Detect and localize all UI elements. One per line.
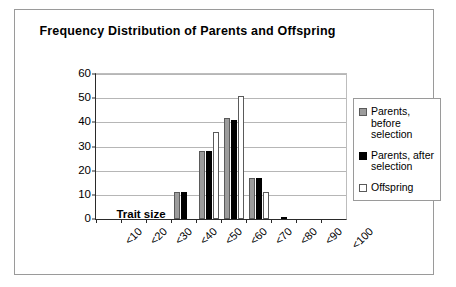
x-tick-mark: [296, 219, 297, 223]
legend-item: Offspring: [359, 182, 436, 194]
legend-label: Parents, before selection: [371, 106, 436, 141]
plot-area: 0102030405060<10<20<30<40<50<60<70<80<90…: [95, 73, 347, 220]
x-axis-label: Trait size: [15, 208, 267, 220]
x-tick-label: <90: [322, 225, 344, 247]
bar-group: [246, 74, 271, 219]
bar: [238, 96, 244, 219]
x-tick-label: <10: [122, 225, 144, 247]
legend-swatch-offspring: [359, 184, 367, 192]
chart-title: Frequency Distribution of Parents and Of…: [15, 24, 360, 38]
legend-item: Parents, before selection: [359, 106, 436, 141]
y-tick-label: 30: [78, 141, 91, 153]
bar-group: [221, 74, 246, 219]
bar-group: [96, 74, 121, 219]
bar: [213, 132, 219, 219]
legend-swatch-parents-after: [359, 152, 367, 160]
x-tick-mark: [321, 219, 322, 223]
x-tick-label: <60: [247, 225, 269, 247]
bar: [281, 217, 287, 219]
chart-legend: Parents, before selection Parents, after…: [353, 98, 441, 201]
bar-group: [296, 74, 321, 219]
bar-group: [171, 74, 196, 219]
y-tick-label: 20: [78, 165, 91, 177]
x-tick-mark: [271, 219, 272, 223]
bar-group: [146, 74, 171, 219]
bar: [224, 118, 230, 220]
x-tick-label: <80: [297, 225, 319, 247]
y-tick-label: 50: [78, 92, 91, 104]
bar-group: [121, 74, 146, 219]
x-tick-label: <100: [349, 225, 375, 251]
legend-item: Parents, after selection: [359, 150, 436, 173]
legend-swatch-parents-before: [359, 108, 367, 116]
bar-group: [196, 74, 221, 219]
bar-group: [271, 74, 296, 219]
y-tick-label: 60: [78, 68, 91, 80]
bar: [231, 120, 237, 219]
chart-frame: Frequency Distribution of Parents and Of…: [14, 9, 434, 275]
bar-group: [321, 74, 346, 219]
legend-label: Offspring: [371, 182, 413, 194]
legend-label: Parents, after selection: [371, 150, 436, 173]
x-tick-label: <40: [197, 225, 219, 247]
x-tick-label: <30: [172, 225, 194, 247]
x-tick-label: <20: [147, 225, 169, 247]
x-tick-label: <50: [222, 225, 244, 247]
y-tick-label: 10: [78, 189, 91, 201]
x-tick-label: <70: [272, 225, 294, 247]
y-tick-label: 40: [78, 117, 91, 129]
